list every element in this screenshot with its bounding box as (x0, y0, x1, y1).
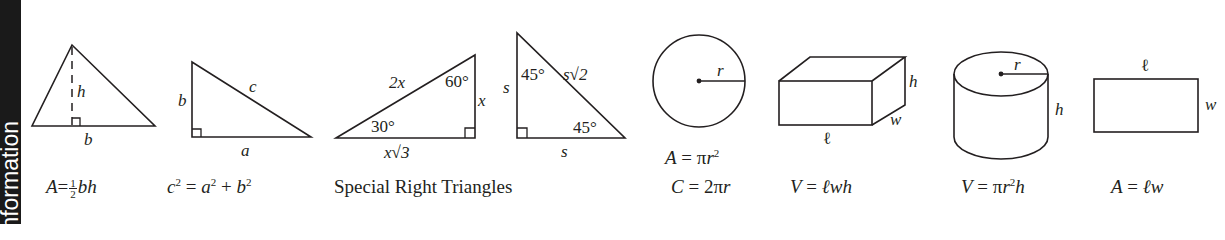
circle-center-dot (697, 79, 702, 84)
t45-hypotenuse-label: s√2 (563, 65, 588, 84)
t45-vertical-leg-label: s (503, 78, 510, 97)
circle-circumference-formula: C = 2πr (671, 176, 730, 198)
cylinder-center-dot (999, 72, 1004, 77)
t30-long-leg-label: x√3 (383, 143, 409, 162)
pythagorean-formula: c2 = a2 + b2 (167, 176, 251, 198)
rectangle-length-label: ℓ (1141, 56, 1149, 75)
cylinder-figure (954, 52, 1048, 159)
right-triangle-b-label: b (178, 91, 187, 110)
triangle-height-label: h (77, 82, 86, 101)
rectangle-figure (1094, 79, 1198, 132)
t30-short-leg-label: x (477, 91, 486, 110)
right-triangle-figure (192, 62, 311, 137)
right-triangle-a-label: a (241, 141, 250, 160)
cylinder-height-label: h (1055, 100, 1064, 119)
rectangle-width-label: w (1205, 95, 1217, 114)
triangle-figure (32, 45, 155, 126)
triangle-base-label: b (84, 130, 93, 149)
t45-horizontal-leg-label: s (561, 142, 568, 161)
circle-area-formula: A = πr2 (665, 147, 719, 169)
t30-hypotenuse-label: 2x (389, 73, 406, 92)
triangle-45-45-90-figure (517, 33, 625, 138)
prism-width-label: w (890, 110, 902, 129)
circle-radius-label: r (717, 61, 724, 80)
t45-angle-top-label: 45° (521, 65, 545, 84)
prism-length-label: ℓ (823, 129, 831, 148)
t45-angle-right-label: 45° (573, 118, 597, 137)
special-right-triangles-caption: Special Right Triangles (334, 176, 512, 198)
triangle-30-60-90-figure (336, 55, 475, 138)
rectangle-area-formula: A = ℓw (1111, 176, 1163, 198)
right-triangle-c-label: c (249, 77, 257, 96)
cylinder-radius-label: r (1014, 55, 1021, 74)
rectangular-prism-figure (779, 57, 905, 125)
prism-height-label: h (909, 72, 918, 91)
cylinder-volume-formula: V = πr2h (961, 176, 1025, 198)
t30-angle-30-label: 30° (371, 117, 395, 136)
t30-angle-60-label: 60° (445, 72, 469, 91)
prism-volume-formula: V = ℓwh (790, 176, 852, 198)
triangle-area-formula: A=12bh (46, 176, 97, 199)
